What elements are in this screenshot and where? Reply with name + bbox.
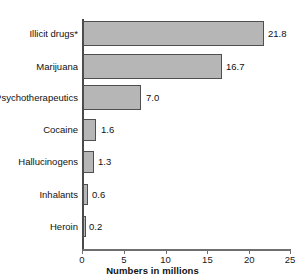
category-label: Psychotherapeutics xyxy=(0,92,78,103)
x-axis-title: Numbers in millions xyxy=(0,265,305,276)
category-label: Illicit drugs* xyxy=(29,28,78,39)
category-label: Heroin xyxy=(50,221,78,232)
bar xyxy=(83,151,94,173)
category-label: Inhalants xyxy=(39,189,78,200)
category-label: Hallucinogens xyxy=(18,156,78,167)
value-label: 7.0 xyxy=(146,92,159,103)
value-label: 0.6 xyxy=(92,189,105,200)
bar xyxy=(83,184,88,205)
category-label: Marijuana xyxy=(36,61,78,72)
bar xyxy=(83,119,96,141)
x-tick-label: 0 xyxy=(70,254,94,265)
x-tick-label: 25 xyxy=(278,254,302,265)
x-tick-label: 15 xyxy=(195,254,219,265)
x-tick-label: 5 xyxy=(112,254,136,265)
value-label: 1.3 xyxy=(98,156,111,167)
value-label: 16.7 xyxy=(226,61,245,72)
bar xyxy=(83,54,222,79)
value-label: 1.6 xyxy=(101,124,114,135)
bar xyxy=(83,85,141,110)
bar-chart: 0 5 10 15 20 25 Illicit drugs* 21.8 Mari… xyxy=(0,0,305,280)
value-label: 0.2 xyxy=(89,221,102,232)
plot-area: 0 5 10 15 20 25 Illicit drugs* 21.8 Mari… xyxy=(0,0,305,280)
bar xyxy=(83,216,86,237)
x-tick-label: 10 xyxy=(154,254,178,265)
x-tick-label: 20 xyxy=(237,254,261,265)
value-label: 21.8 xyxy=(268,28,287,39)
bar xyxy=(83,21,264,46)
category-label: Cocaine xyxy=(43,124,78,135)
x-axis-line xyxy=(82,249,291,251)
